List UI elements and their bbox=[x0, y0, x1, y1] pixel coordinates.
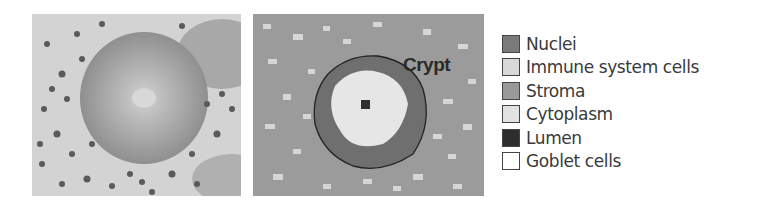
legend-item-cytoplasm: Cytoplasm bbox=[502, 103, 699, 127]
legend-label: Nuclei bbox=[526, 34, 576, 54]
legend: Nuclei Immune system cells Stroma Cytopl… bbox=[502, 32, 699, 173]
segmentation-texture bbox=[253, 14, 484, 196]
swatch-immune bbox=[502, 58, 520, 76]
crypt-annotation: Crypt bbox=[403, 54, 450, 76]
legend-label: Cytoplasm bbox=[526, 104, 613, 124]
legend-item-goblet: Goblet cells bbox=[502, 150, 699, 174]
legend-item-lumen: Lumen bbox=[502, 126, 699, 150]
legend-item-nuclei: Nuclei bbox=[502, 32, 699, 56]
swatch-nuclei bbox=[502, 35, 520, 53]
legend-item-stroma: Stroma bbox=[502, 79, 699, 103]
legend-item-immune: Immune system cells bbox=[502, 56, 699, 80]
swatch-cytoplasm bbox=[502, 105, 520, 123]
legend-label: Immune system cells bbox=[526, 57, 699, 77]
swatch-lumen bbox=[502, 129, 520, 147]
segmentation-map bbox=[253, 14, 484, 196]
legend-label: Lumen bbox=[526, 128, 582, 148]
histology-image bbox=[32, 14, 241, 196]
histology-texture bbox=[32, 14, 241, 196]
legend-label: Stroma bbox=[526, 81, 585, 101]
swatch-goblet bbox=[502, 152, 520, 170]
swatch-stroma bbox=[502, 82, 520, 100]
legend-label: Goblet cells bbox=[526, 151, 621, 171]
